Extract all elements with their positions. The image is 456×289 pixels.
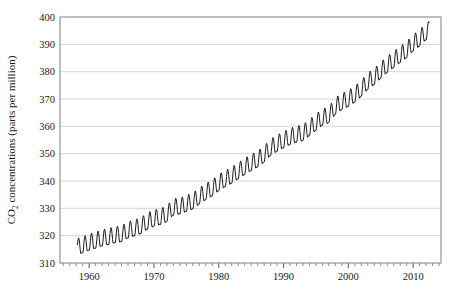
co2-concentration-chart: 310320330340350360370380390400 196019701… xyxy=(0,0,456,289)
y-axis-tick-label: 400 xyxy=(39,12,55,23)
y-axis-tick-label: 330 xyxy=(39,203,55,214)
x-axis-tick-label: 1980 xyxy=(208,271,229,282)
x-axis-tick-label: 1990 xyxy=(273,271,294,282)
y-axis-tick-label: 380 xyxy=(39,66,55,77)
x-axis-tick-label: 1970 xyxy=(143,271,164,282)
y-axis-tick-label: 320 xyxy=(39,230,55,241)
x-axis-tick-label: 1960 xyxy=(79,271,100,282)
x-axis-tick-label: 2010 xyxy=(403,271,424,282)
y-axis-tick-label: 350 xyxy=(39,148,55,159)
y-axis-tick-label: 310 xyxy=(39,258,55,269)
y-axis-tick-label: 360 xyxy=(39,121,55,132)
y-axis-tick-label: 370 xyxy=(39,94,55,105)
chart-background xyxy=(0,0,456,289)
y-axis-tick-label: 340 xyxy=(39,176,55,187)
y-axis-tick-label: 390 xyxy=(39,39,55,50)
x-axis-tick-label: 2000 xyxy=(338,271,359,282)
chart-canvas: 310320330340350360370380390400 196019701… xyxy=(0,0,456,289)
